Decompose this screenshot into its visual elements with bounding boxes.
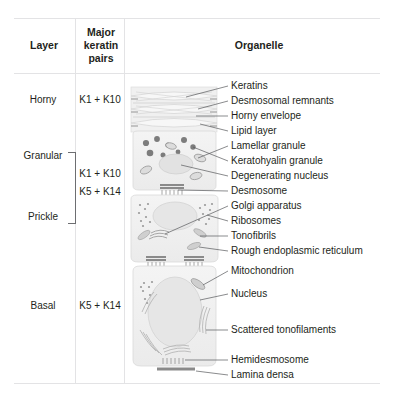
- organelle-label-horny-envelope: Horny envelope: [231, 110, 301, 122]
- table-bottom-border: [14, 383, 380, 384]
- epidermis-keratin-figure: Layer Major keratin pairs Organelle Horn…: [0, 0, 395, 399]
- horny-layer-cells: [131, 87, 217, 132]
- organelle-label-nucleus: Nucleus: [231, 288, 267, 300]
- header-keratin-line-3: pairs: [78, 52, 124, 65]
- organelle-label-tonofibrils: Tonofibrils: [231, 230, 276, 242]
- organelle-label-hemidesmosome: Hemidesmosome: [231, 354, 309, 366]
- organelle-label-rough-endoplasmic-reticulum: Rough endoplasmic reticulum: [231, 245, 363, 257]
- organelle-label-lipid-layer: Lipid layer: [231, 125, 277, 137]
- organelle-label-desmosome: Desmosome: [231, 185, 287, 197]
- bracket-spine: [75, 152, 76, 224]
- layer-name-basal: Basal: [12, 300, 74, 312]
- organelle-label-golgi-apparatus: Golgi apparatus: [231, 200, 302, 212]
- keratin-pair-mid-upper: K1 + K10: [72, 168, 128, 180]
- prickle-layer-cell: [131, 195, 218, 267]
- organelle-label-keratins: Keratins: [231, 80, 268, 92]
- keratin-pair-horny: K1 + K10: [72, 94, 128, 106]
- layer-name-horny: Horny: [12, 94, 74, 106]
- table-header-border: [14, 73, 380, 74]
- header-keratin-line-2: keratin: [78, 39, 124, 52]
- table-top-border: [14, 18, 380, 19]
- organelle-label-mitochondrion: Mitochondrion: [231, 265, 294, 277]
- organelle-label-lamina-densa: Lamina densa: [231, 369, 294, 381]
- keratin-pair-mid-lower: K5 + K14: [72, 186, 128, 198]
- header-major-keratin-pairs: Major keratin pairs: [78, 26, 124, 65]
- layer-bracket-granular-prickle: [67, 152, 76, 224]
- header-organelle: Organelle: [128, 39, 390, 52]
- granular-layer-cell: [133, 131, 216, 195]
- header-layer: Layer: [14, 39, 74, 52]
- leader-lines: [0, 0, 395, 399]
- organelle-label-keratohyalin-granule: Keratohyalin granule: [231, 155, 323, 167]
- bracket-bottom-arm: [68, 223, 76, 224]
- organelle-label-desmosomal-remnants: Desmosomal remnants: [231, 95, 334, 107]
- header-keratin-line-1: Major: [78, 26, 124, 39]
- organelle-label-ribosomes: Ribosomes: [231, 215, 281, 227]
- basal-layer-cell: [133, 266, 216, 369]
- organelle-label-degenerating-nucleus: Degenerating nucleus: [231, 170, 328, 182]
- layer-name-prickle: Prickle: [12, 211, 74, 223]
- table-divider-keratin-organelle: [124, 18, 125, 383]
- epidermis-cell-illustration: [0, 0, 395, 399]
- keratin-pair-basal: K5 + K14: [72, 300, 128, 312]
- organelle-label-scattered-tonofilaments: Scattered tonofilaments: [231, 324, 336, 336]
- layer-name-granular: Granular: [12, 150, 74, 162]
- organelle-label-lamellar-granule: Lamellar granule: [231, 140, 306, 152]
